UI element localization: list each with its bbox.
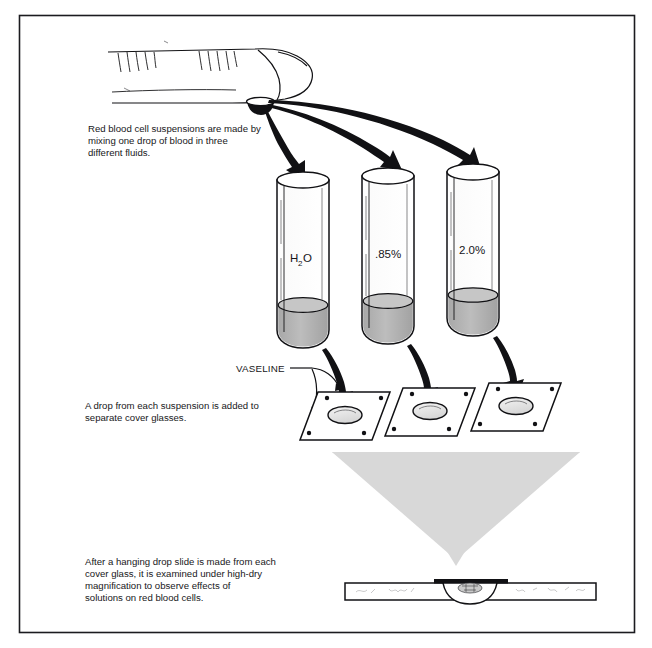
suspension-drop-3 [499,398,533,415]
vaseline-dab-2d [447,427,451,431]
vaseline-dab-3a [496,387,500,391]
tube-label-2: .85% [375,248,401,260]
vaseline-dab-2b [464,392,468,396]
tube-rim-3 [447,164,499,180]
caption-step1-line-3: different fluids. [88,147,150,158]
vaseline-dab-2c [392,427,396,431]
test-tube-saline-hypotonic: .85% [362,168,414,344]
vaseline-dab-1b [379,396,383,400]
caption-step3-line-4: solutions on red blood cells. [85,592,203,603]
caption-step3-line-3: magnification to observe effects of [85,580,231,591]
vaseline-dab-3b [550,387,554,391]
tube-label-1-tail: O [303,252,312,264]
caption-step2-line-1: A drop from each suspension is added to [85,400,259,411]
vaseline-dab-1d [362,431,366,435]
tube-liquid-surface-2 [363,294,413,309]
caption-step3-line-2: cover glass, it is examined under high-d… [85,568,262,579]
vaseline-dab-3d [533,422,537,426]
vaseline-dab-2a [410,392,414,396]
caption-step3-line-1: After a hanging drop slide is made from … [85,556,276,567]
tube-rim-1 [277,172,329,188]
test-tube-saline-hypertonic: 2.0% [447,164,499,336]
caption-step2-line-2: separate cover glasses. [85,412,186,423]
hanging-drop-slide [345,579,596,604]
vaseline-label: VASELINE [236,363,285,374]
tube-liquid-surface-1 [278,298,328,313]
vaseline-dab-3c [478,422,482,426]
tube-liquid-surface-3 [448,288,498,302]
tube-label-3: 2.0% [459,244,485,256]
caption-step1-line-2: mixing one drop of blood in three [88,135,228,146]
red-blood-cells-in-drop [458,583,482,593]
caption-step1-line-1: Red blood cell suspensions are made by [88,123,261,134]
figure-root: Red blood cell suspensions are made by m… [0,0,652,648]
suspension-drop-2 [413,403,447,420]
test-tube-water: H 2 O [277,172,329,348]
tube-rim-2 [362,168,414,184]
vaseline-dab-1a [325,396,329,400]
vaseline-dab-1c [307,431,311,435]
diagram-canvas: Red blood cell suspensions are made by m… [0,0,652,648]
suspension-drop-1 [328,407,362,424]
